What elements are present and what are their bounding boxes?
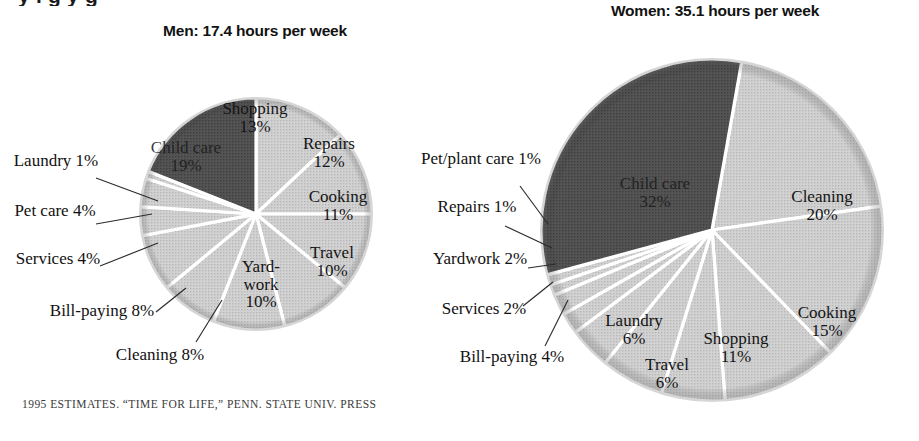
men-label-laundry: Laundry 1% [6, 152, 106, 170]
men-pie-chart [136, 96, 376, 336]
source-note: 1995 ESTIMATES. “TIME FOR LIFE,” PENN. S… [22, 398, 376, 410]
men-pie-edge-shade [139, 97, 373, 331]
women-chart-title: Women: 35.1 hours per week [580, 2, 850, 20]
men-label-cleaning: Cleaning 8% [108, 346, 212, 364]
women-label-yardwork: Yardwork 2% [420, 250, 540, 268]
men-label-services: Services 4% [6, 250, 110, 268]
men-label-bill-paying: Bill-paying 8% [42, 302, 162, 320]
women-pie-svg [538, 56, 890, 408]
women-label-services: Services 2% [428, 300, 540, 318]
men-label-pet-care: Pet care 4% [4, 202, 106, 220]
women-pie-chart [538, 56, 890, 408]
men-chart-title: Men: 17.4 hours per week [130, 22, 380, 40]
women-label-pet-plant-care: Pet/plant care 1% [420, 150, 542, 168]
women-pie-edge-shade [540, 58, 884, 402]
infographic-canvas: y l g y g Men: 17.4 hours per week [0, 0, 919, 441]
women-label-bill-paying: Bill-paying 4% [450, 348, 574, 366]
women-label-repairs: Repairs 1% [422, 198, 532, 216]
men-pie-svg [136, 96, 376, 336]
